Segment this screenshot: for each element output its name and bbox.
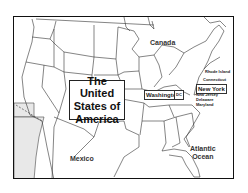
map-frame: Canada Mexico Atlantic Ocean The United … <box>13 16 234 179</box>
title-line-3: America <box>75 113 118 126</box>
dc-marker: DC <box>174 90 184 100</box>
label-connecticut: Connecticut <box>203 78 226 82</box>
ocean-line-2: Ocean <box>190 153 216 161</box>
ocean-line-1: Atlantic <box>190 145 216 153</box>
label-atlantic-ocean: Atlantic Ocean <box>190 145 216 161</box>
label-mexico: Mexico <box>70 155 94 162</box>
title-line-1: The United <box>70 75 124 100</box>
label-maryland: Maryland <box>196 103 214 107</box>
title-box: The United States of America <box>69 80 125 120</box>
title-line-2: States of <box>74 100 120 113</box>
label-rhode-island: Rhode Island <box>205 70 230 74</box>
label-canada: Canada <box>150 39 175 46</box>
